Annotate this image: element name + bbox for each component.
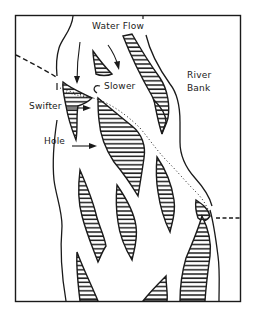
label-river-bank-line1: River: [187, 70, 211, 80]
sand-bar-lower-left-mid: [79, 170, 106, 262]
right-bank-line: [146, 35, 212, 206]
sand-bar-right-mid: [156, 157, 174, 232]
eddy-hook: [94, 86, 100, 93]
flow-arrow-right: [108, 45, 120, 70]
river-diagram: [0, 0, 254, 321]
sand-bar-lower-middle: [116, 185, 136, 260]
label-river-bank-line2: Bank: [187, 83, 210, 93]
label-swifter: Swifter: [29, 101, 62, 111]
sand-bar-bottom-middle: [143, 276, 167, 301]
label-slower: Slower: [104, 81, 136, 91]
dashed-crossing-line: [16, 55, 58, 78]
left-bank-lower: [53, 120, 66, 301]
sand-bar-bottom-left: [77, 252, 98, 301]
sand-bar-small-upper: [93, 51, 112, 76]
hole-arrow: [72, 143, 97, 149]
sand-bar-right-lower: [180, 216, 211, 301]
left-bank-top: [56, 16, 73, 76]
flow-arrow-left: [74, 42, 80, 84]
label-hole: Hole: [44, 136, 65, 146]
label-water-flow: Water Flow: [92, 21, 144, 31]
